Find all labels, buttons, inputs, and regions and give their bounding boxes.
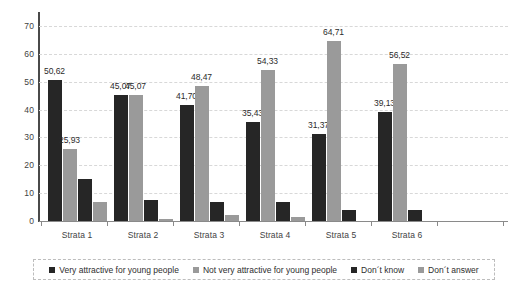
legend-swatch-icon [193, 267, 199, 273]
x-axis-tick [107, 221, 108, 226]
bar-slot: 39,13 [377, 12, 392, 221]
y-axis-tick-labels: 010203040506070 [0, 0, 34, 295]
x-axis-tick [41, 221, 42, 226]
bar[interactable] [246, 122, 260, 221]
bar-slot [143, 12, 158, 221]
chart-legend: Very attractive for young peopleNot very… [33, 259, 495, 280]
y-axis-tick-label: 70 [8, 21, 34, 31]
y-axis-tick-label: 0 [8, 216, 34, 226]
y-axis-tick-label: 30 [8, 132, 34, 142]
bar[interactable] [114, 95, 128, 221]
bar-group: 35,4354,33 [245, 12, 308, 221]
bar[interactable] [261, 70, 275, 221]
x-axis-category-label: Strata 5 [326, 230, 357, 240]
bar[interactable] [144, 200, 158, 221]
bar-slot [290, 12, 305, 221]
bar-group: 31,3764,71 [311, 12, 374, 221]
legend-label: Not very attractive for young people [203, 265, 337, 275]
bar-group: 39,1356,52 [377, 12, 440, 221]
bar-slot [341, 12, 356, 221]
y-axis-tick-label: 10 [8, 188, 34, 198]
bar-slot: 25,93 [62, 12, 77, 221]
x-axis-tick [305, 221, 306, 226]
bars: 45,0745,07 [113, 12, 176, 221]
legend-item[interactable]: Very attractive for young people [49, 265, 179, 275]
bar-chart: 010203040506070 50,6225,9345,0745,0741,7… [0, 0, 530, 295]
x-axis-tick [371, 221, 372, 226]
bar-group: 50,6225,93 [47, 12, 110, 221]
bar-slot [407, 12, 422, 221]
legend-swatch-icon [418, 267, 424, 273]
legend-label: Don´t know [361, 265, 404, 275]
bar-slot: 35,43 [245, 12, 260, 221]
bar-slot [77, 12, 92, 221]
bar[interactable] [408, 210, 422, 221]
x-axis-tick [503, 221, 504, 226]
bar[interactable] [276, 202, 290, 222]
bar[interactable] [195, 86, 209, 221]
bar[interactable] [327, 41, 341, 221]
bar-slot: 50,62 [47, 12, 62, 221]
legend-item[interactable]: Don´t know [351, 265, 404, 275]
bars: 50,6225,93 [47, 12, 110, 221]
bar[interactable] [78, 179, 92, 221]
x-axis-category-label: Strata 1 [62, 230, 93, 240]
bar[interactable] [312, 134, 326, 221]
legend-swatch-icon [49, 267, 55, 273]
bar-slot [209, 12, 224, 221]
y-axis-tick-label: 40 [8, 105, 34, 115]
x-axis-category-label: Strata 3 [194, 230, 225, 240]
bar-slot: 41,70 [179, 12, 194, 221]
x-axis-category-label: Strata 4 [260, 230, 291, 240]
x-axis-category-label: Strata 2 [128, 230, 159, 240]
bar-slot: 48,47 [194, 12, 209, 221]
bar[interactable] [210, 202, 224, 222]
legend-item[interactable]: Not very attractive for young people [193, 265, 337, 275]
bars: 39,1356,52 [377, 12, 440, 221]
bar[interactable] [63, 149, 77, 221]
y-axis-tick-label: 60 [8, 49, 34, 59]
bars: 41,7048,47 [179, 12, 242, 221]
legend-swatch-icon [351, 267, 357, 273]
x-axis-category-label: Strata 6 [392, 230, 423, 240]
legend-item[interactable]: Don´t answer [418, 265, 479, 275]
bar-slot: 56,52 [392, 12, 407, 221]
legend-label: Don´t answer [428, 265, 479, 275]
bar[interactable] [129, 95, 143, 221]
bar-slot [224, 12, 239, 221]
legend-label: Very attractive for young people [59, 265, 179, 275]
bar-group: 41,7048,47 [179, 12, 242, 221]
bar-slot [92, 12, 107, 221]
bar[interactable] [93, 202, 107, 222]
bar[interactable] [378, 112, 392, 221]
x-axis-tick [173, 221, 174, 226]
bar-slot: 45,07 [128, 12, 143, 221]
bar-slot [356, 12, 371, 221]
bar[interactable] [180, 105, 194, 221]
bar-slot [275, 12, 290, 221]
bar-slot: 45,07 [113, 12, 128, 221]
bars: 31,3764,71 [311, 12, 374, 221]
bar[interactable] [48, 80, 62, 221]
bar-slot: 31,37 [311, 12, 326, 221]
y-axis-tick-label: 50 [8, 77, 34, 87]
bar-slot: 54,33 [260, 12, 275, 221]
bar[interactable] [342, 210, 356, 221]
bar[interactable] [393, 64, 407, 222]
bars: 35,4354,33 [245, 12, 308, 221]
bar-group: 45,0745,07 [113, 12, 176, 221]
plot-area: 50,6225,9345,0745,0741,7048,4735,4354,33… [39, 12, 508, 221]
bar-slot [422, 12, 437, 221]
x-axis-tick [239, 221, 240, 226]
bar-slot [158, 12, 173, 221]
y-axis-tick-label: 20 [8, 160, 34, 170]
x-axis-tick [437, 221, 438, 226]
bar-slot: 64,71 [326, 12, 341, 221]
